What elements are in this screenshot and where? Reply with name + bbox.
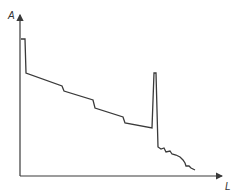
x-axis-label: L <box>225 181 231 192</box>
data-series-line <box>21 39 195 170</box>
chart-area: A L <box>0 0 238 196</box>
y-axis-label: A <box>8 10 15 21</box>
line-plot <box>0 0 238 196</box>
